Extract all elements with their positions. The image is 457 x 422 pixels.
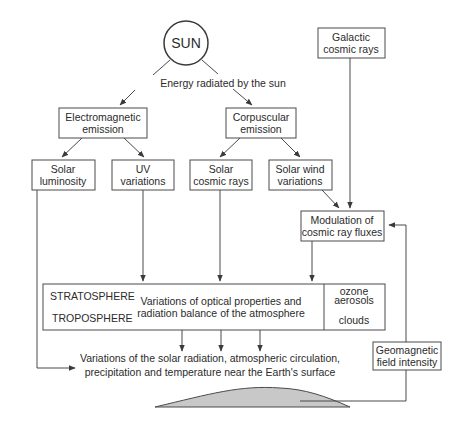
surface-effects-line1: Variations of the solar radiation, atmos… bbox=[80, 352, 340, 364]
svg-text:Electromagnetic: Electromagnetic bbox=[65, 111, 140, 123]
uv-variations-box: UV variations bbox=[112, 160, 174, 190]
solar-wind-variations-box: Solar wind variations bbox=[269, 160, 332, 190]
svg-text:Solar: Solar bbox=[51, 163, 76, 175]
sun-node: SUN bbox=[164, 21, 208, 65]
atmosphere-box: STRATOSPHERE TROPOSPHERE Variations of o… bbox=[43, 284, 385, 330]
modulation-cosmic-ray-box: Modulation of cosmic ray fluxes bbox=[301, 211, 384, 241]
svg-text:cosmic rays: cosmic rays bbox=[323, 43, 378, 55]
svg-text:Solar wind: Solar wind bbox=[275, 163, 324, 175]
stratosphere-label: STRATOSPHERE bbox=[50, 290, 135, 302]
svg-text:cosmic ray fluxes: cosmic ray fluxes bbox=[302, 226, 383, 238]
svg-text:emission: emission bbox=[82, 123, 124, 135]
atmosphere-center-line1: Variations of optical properties and bbox=[141, 295, 302, 307]
sun-label: SUN bbox=[171, 35, 201, 51]
svg-text:Geomagnetic: Geomagnetic bbox=[376, 344, 438, 356]
earth-surface-dome bbox=[155, 387, 350, 407]
svg-text:Modulation of: Modulation of bbox=[310, 214, 373, 226]
atmosphere-center-line2: radiation balance of the atmosphere bbox=[137, 307, 305, 319]
solar-luminosity-box: Solar luminosity bbox=[32, 160, 95, 190]
clouds-label: clouds bbox=[339, 314, 369, 326]
svg-text:emission: emission bbox=[240, 123, 282, 135]
surface-effects-line2: precipitation and temperature near the E… bbox=[85, 366, 336, 378]
aerosols-label: aerosols bbox=[334, 294, 374, 306]
geomagnetic-field-box: Geomagnetic field intensity bbox=[373, 342, 441, 370]
svg-text:variations: variations bbox=[121, 175, 166, 187]
energy-radiated-label: Energy radiated by the sun bbox=[160, 77, 286, 89]
svg-text:cosmic rays: cosmic rays bbox=[193, 175, 248, 187]
svg-text:luminosity: luminosity bbox=[40, 175, 87, 187]
solar-cosmic-rays-box: Solar cosmic rays bbox=[190, 160, 252, 190]
corpuscular-emission-box: Corpuscular emission bbox=[226, 108, 296, 138]
svg-text:Solar: Solar bbox=[209, 163, 234, 175]
galactic-cosmic-rays-box: Galactic cosmic rays bbox=[318, 28, 385, 58]
svg-text:Corpuscular: Corpuscular bbox=[233, 111, 290, 123]
svg-text:Galactic: Galactic bbox=[332, 31, 370, 43]
electromagnetic-emission-box: Electromagnetic emission bbox=[59, 108, 147, 138]
svg-text:UV: UV bbox=[136, 163, 151, 175]
sun-climate-diagram: SUN Energy radiated by the sun Electroma… bbox=[0, 0, 457, 422]
svg-text:field intensity: field intensity bbox=[377, 356, 438, 368]
troposphere-label: TROPOSPHERE bbox=[52, 312, 133, 324]
svg-text:variations: variations bbox=[278, 175, 323, 187]
